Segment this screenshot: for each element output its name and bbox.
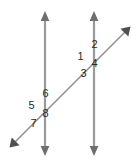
angle-label-5: 5: [26, 100, 37, 111]
right-parallel-line: [90, 11, 99, 156]
angle-label-1: 1: [75, 51, 86, 62]
left-parallel-line: [41, 11, 50, 156]
angle-label-6: 6: [40, 88, 51, 99]
transversal-line: [10, 27, 131, 148]
angle-label-7: 7: [28, 118, 39, 129]
right-line-top-arrowhead: [90, 11, 99, 21]
right-line-bottom-arrowhead: [90, 146, 99, 156]
geometry-canvas: [0, 0, 136, 165]
angle-label-4: 4: [89, 58, 100, 69]
angle-label-2: 2: [89, 39, 100, 50]
geometry-figure: 1 2 3 4 5 6 7 8: [0, 0, 136, 165]
angle-label-8: 8: [40, 108, 51, 119]
left-line-bottom-arrowhead: [41, 146, 50, 156]
angle-label-3: 3: [78, 68, 89, 79]
left-line-top-arrowhead: [41, 11, 50, 21]
